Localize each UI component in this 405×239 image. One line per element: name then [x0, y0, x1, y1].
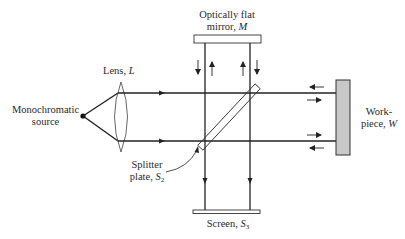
- ray-source-lower: [83, 116, 118, 141]
- mirror-label: Optically flat mirror, M: [199, 9, 255, 33]
- screen: [193, 210, 260, 214]
- lens-label: Lens, L: [103, 65, 135, 77]
- mirror-label-line2: mirror, M: [199, 21, 255, 33]
- mirror-label-line1: Optically flat: [199, 9, 255, 21]
- mirror-label-text: mirror,: [207, 21, 239, 32]
- workpiece-symbol: W: [388, 118, 397, 129]
- splitter-leader: [166, 150, 197, 172]
- workpiece-label: Work- piece, W: [355, 106, 403, 130]
- workpiece-label-line1: Work-: [355, 106, 403, 118]
- arrow-lower-right: [159, 139, 165, 144]
- source-label: Monochromatic source: [12, 104, 79, 128]
- splitter-label-line2: plate, S2: [127, 171, 167, 186]
- splitter-label-text: plate,: [130, 171, 156, 182]
- source-label-line1: Monochromatic: [12, 104, 79, 116]
- screen-label: Screen, S3: [203, 218, 253, 233]
- screen-label-text: Screen,: [207, 218, 241, 229]
- optically-flat-mirror: [194, 35, 261, 43]
- lens-symbol: L: [129, 65, 135, 76]
- workpiece-label-text: piece,: [361, 118, 388, 129]
- source-label-line2: source: [12, 116, 79, 128]
- arrow-screen-left: [203, 178, 208, 184]
- lens-label-text: Lens,: [103, 65, 129, 76]
- splitter-label: Splitter plate, S2: [127, 159, 167, 186]
- splitter-subscript: 2: [161, 176, 165, 184]
- screen-subscript: 3: [246, 223, 250, 231]
- workpiece-label-line2: piece, W: [355, 118, 403, 130]
- arrow-screen-right: [248, 178, 253, 184]
- splitter-leader-arrowhead: [195, 146, 200, 153]
- ray-source-upper: [83, 93, 118, 116]
- splitter-plate: [198, 84, 260, 150]
- mirror-symbol: M: [238, 21, 247, 32]
- arrow-upper-right: [159, 91, 165, 96]
- workpiece: [336, 80, 350, 155]
- splitter-label-line1: Splitter: [127, 159, 167, 171]
